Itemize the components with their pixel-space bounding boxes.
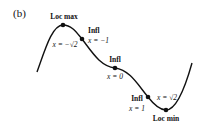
loc-max-coord: x = −√2 bbox=[51, 40, 77, 49]
infl-neg1-label: Infl bbox=[88, 26, 100, 35]
panel-label: (b) bbox=[13, 7, 26, 20]
infl-1-coord: x = 1 bbox=[128, 104, 145, 113]
infl-0-coord: x = 0 bbox=[106, 72, 123, 81]
function-graph-figure: (b) Loc max x = −√2 Infl x = −1 Infl x =… bbox=[0, 0, 206, 131]
infl-1-label: Infl bbox=[131, 94, 143, 103]
loc-min-coord: x = √2 bbox=[156, 93, 177, 102]
infl-neg1-point bbox=[80, 37, 85, 42]
loc-max-point bbox=[61, 23, 66, 28]
loc-min-label: Loc min bbox=[153, 114, 180, 123]
loc-max-label: Loc max bbox=[50, 12, 78, 21]
infl-0-label: Infl bbox=[109, 55, 121, 64]
infl-1-point bbox=[146, 95, 151, 100]
infl-neg1-coord: x = −1 bbox=[87, 36, 109, 45]
loc-min-point bbox=[164, 108, 169, 113]
infl-0-point bbox=[113, 66, 118, 71]
